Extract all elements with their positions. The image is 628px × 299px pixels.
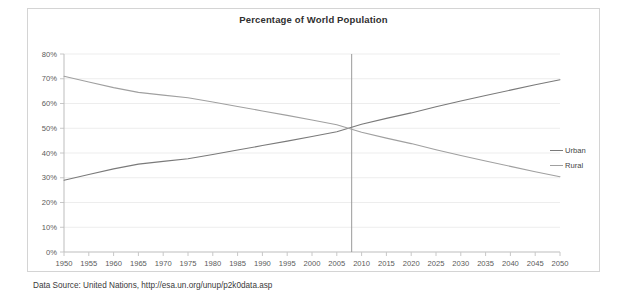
x-axis-tick-label: 1985	[229, 259, 246, 268]
y-axis-tick-label: 40%	[42, 149, 57, 158]
x-axis-tick-label: 1960	[105, 259, 122, 268]
legend-label: Rural	[565, 162, 583, 170]
x-axis-tick-label: 2020	[403, 259, 420, 268]
y-axis-tick-label: 10%	[42, 223, 57, 232]
x-axis-tick-label: 1970	[155, 259, 172, 268]
series-line-rural	[64, 76, 560, 176]
legend-label: Urban	[565, 147, 586, 155]
y-axis-tick-label: 0%	[46, 248, 57, 257]
chart-legend: UrbanRural	[550, 143, 598, 173]
y-axis-tick-label: 70%	[42, 74, 57, 83]
y-axis-tick-label: 30%	[42, 173, 57, 182]
x-axis-tick-label: 2010	[353, 259, 370, 268]
x-axis-tick-label: 1955	[80, 259, 97, 268]
legend-swatch-urban-icon	[550, 150, 563, 151]
legend-item-rural[interactable]: Rural	[550, 158, 598, 173]
legend-swatch-rural-icon	[550, 165, 563, 166]
x-axis-tick-label: 1980	[204, 259, 221, 268]
y-axis-tick-label: 20%	[42, 198, 57, 207]
x-axis-tick-label: 1950	[56, 259, 73, 268]
y-axis-tick-label: 80%	[42, 50, 57, 59]
x-axis-tick-label: 2040	[502, 259, 519, 268]
x-axis-tick-label: 2035	[477, 259, 494, 268]
plot-area: 0%10%20%30%40%50%60%70%80%19501955196019…	[27, 8, 600, 272]
x-axis-tick-label: 2000	[304, 259, 321, 268]
y-axis-tick-label: 50%	[42, 124, 57, 133]
series-line-urban	[64, 80, 560, 180]
x-axis-tick-label: 2045	[527, 259, 544, 268]
x-axis-tick-label: 2030	[452, 259, 469, 268]
x-axis-tick-label: 1995	[279, 259, 296, 268]
x-axis-tick-label: 1990	[254, 259, 271, 268]
data-source-note: Data Source: United Nations, http://esa.…	[33, 281, 272, 290]
x-axis-tick-label: 2025	[428, 259, 445, 268]
x-axis-tick-label: 1975	[180, 259, 197, 268]
x-axis-tick-label: 1965	[130, 259, 147, 268]
x-axis-tick-label: 2015	[378, 259, 395, 268]
chart-figure: Percentage of World Population 0%10%20%3…	[0, 0, 628, 299]
x-axis-tick-label: 2050	[552, 259, 569, 268]
x-axis-tick-label: 2005	[328, 259, 345, 268]
legend-item-urban[interactable]: Urban	[550, 143, 598, 158]
y-axis-tick-label: 60%	[42, 99, 57, 108]
